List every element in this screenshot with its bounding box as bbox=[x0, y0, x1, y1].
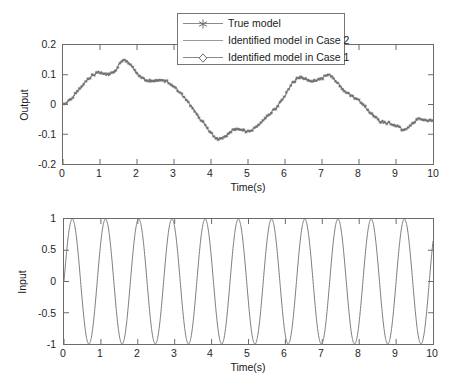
output-xaxis-title: Time(s) bbox=[198, 181, 298, 193]
input-panel: 1 0.5 0 -0.5 -1 Input bbox=[0, 198, 460, 388]
output-xtick-10: 10 bbox=[422, 168, 444, 178]
output-yaxis-title: Output bbox=[18, 75, 30, 135]
figure-canvas: 0.2 0.1 0 -0.1 -0.2 Output bbox=[0, 0, 460, 388]
output-xtick-1: 1 bbox=[89, 168, 109, 178]
output-xtick-3: 3 bbox=[163, 168, 183, 178]
input-axes-frame bbox=[63, 218, 434, 345]
output-xtick-0: 0 bbox=[52, 168, 72, 178]
legend-label-case-1: Identified model in Case 1 bbox=[228, 52, 349, 63]
output-xtick-8: 8 bbox=[348, 168, 368, 178]
input-xtick-6: 6 bbox=[274, 348, 294, 358]
legend-sample-case-1 bbox=[183, 51, 223, 65]
input-curve-svg bbox=[64, 219, 433, 344]
legend-label-case-2: Identified model in Case 2 bbox=[228, 35, 349, 46]
input-xtick-9: 9 bbox=[385, 348, 405, 358]
output-xtick-5: 5 bbox=[237, 168, 257, 178]
input-ytick-1: 0.5 bbox=[26, 244, 56, 254]
output-ytick-1: 0.1 bbox=[28, 69, 56, 79]
input-ytick-0: 1 bbox=[30, 213, 56, 223]
output-ytick-0: 0.2 bbox=[28, 39, 56, 49]
output-xtick-2: 2 bbox=[126, 168, 146, 178]
input-ytick-4: -1 bbox=[26, 339, 56, 349]
output-xtick-7: 7 bbox=[311, 168, 331, 178]
legend-sample-true-model bbox=[183, 17, 223, 31]
diamond-marker-icon bbox=[198, 52, 209, 63]
legend[interactable]: True model Identified model in Case 2 Id… bbox=[177, 13, 345, 65]
input-data-series bbox=[64, 219, 433, 344]
output-xtick-6: 6 bbox=[274, 168, 294, 178]
input-xtick-4: 4 bbox=[200, 348, 220, 358]
input-xaxis-title: Time(s) bbox=[198, 361, 298, 373]
input-xtick-3: 3 bbox=[164, 348, 184, 358]
legend-sample-case-2 bbox=[183, 34, 223, 48]
input-xtick-1: 1 bbox=[90, 348, 110, 358]
legend-item-case-1[interactable]: Identified model in Case 1 bbox=[183, 49, 343, 66]
legend-label-true-model: True model bbox=[228, 18, 281, 29]
input-xtick-2: 2 bbox=[127, 348, 147, 358]
input-xtick-5: 5 bbox=[237, 348, 257, 358]
output-xtick-4: 4 bbox=[200, 168, 220, 178]
input-xtick-7: 7 bbox=[311, 348, 331, 358]
input-yaxis-title: Input bbox=[16, 252, 28, 312]
output-data-series bbox=[63, 58, 433, 141]
legend-item-case-2[interactable]: Identified model in Case 2 bbox=[183, 32, 343, 49]
asterisk-marker-icon bbox=[198, 18, 209, 29]
input-xtick-8: 8 bbox=[348, 348, 368, 358]
input-ytick-2: 0 bbox=[30, 276, 56, 286]
input-xtick-0: 0 bbox=[53, 348, 73, 358]
input-xtick-10: 10 bbox=[421, 348, 443, 358]
input-tick-marks bbox=[64, 219, 433, 344]
legend-item-true-model[interactable]: True model bbox=[183, 15, 343, 32]
output-xtick-9: 9 bbox=[385, 168, 405, 178]
output-ytick-2: 0 bbox=[28, 99, 56, 109]
